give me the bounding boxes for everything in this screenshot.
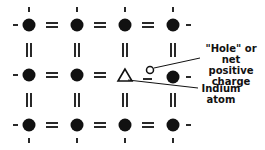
hole-circle <box>147 67 154 74</box>
indium-label-line2: atom <box>200 94 242 105</box>
hole-label: "Hole" or net positive charge <box>200 43 262 87</box>
hole-label-line2: net positive <box>200 54 262 76</box>
atoms <box>23 19 180 132</box>
indium-label-line1: Indium <box>200 83 242 94</box>
hole-leader-line <box>154 58 200 68</box>
indium-leader-line <box>128 80 198 88</box>
indium-atom-triangle <box>118 69 132 81</box>
vertical-bonds <box>27 43 175 107</box>
hole-label-line1: "Hole" or <box>200 43 262 54</box>
indium-label: Indium atom <box>200 83 242 105</box>
horizontal-bonds <box>46 23 154 127</box>
